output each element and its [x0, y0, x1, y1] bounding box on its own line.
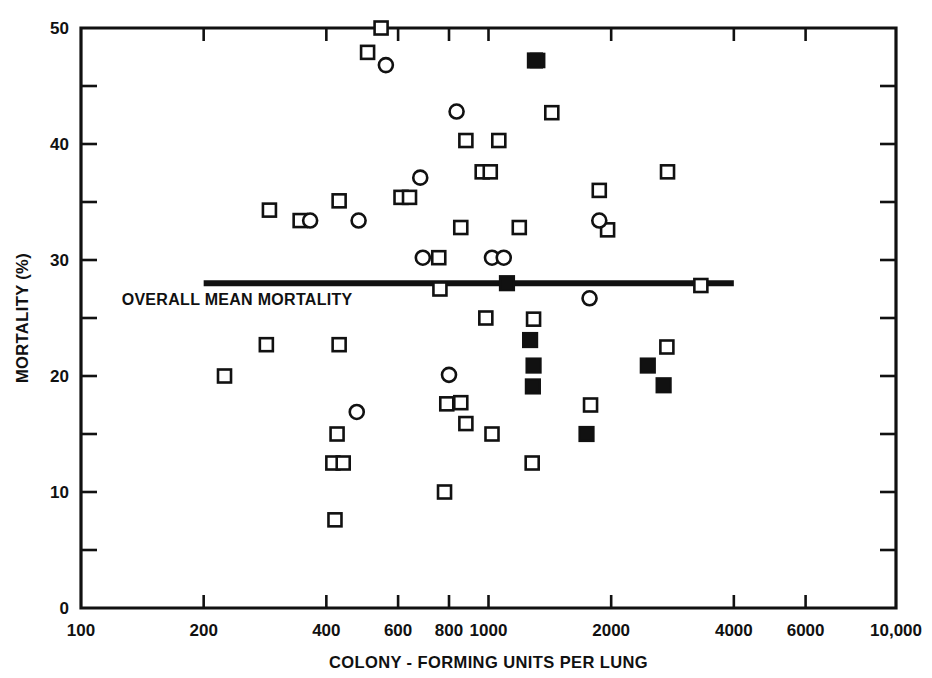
data-point-open-circle: [450, 105, 464, 119]
data-point-open-square: [440, 397, 453, 410]
data-point-open-square: [218, 370, 231, 383]
data-point-open-circle: [497, 251, 511, 265]
data-point-filled-square: [641, 359, 655, 373]
y-tick-label: 10: [50, 483, 69, 502]
data-point-open-square: [459, 134, 472, 147]
data-point-open-square: [337, 457, 350, 470]
x-axis-ticks: [204, 28, 806, 608]
data-point-open-circle: [413, 171, 427, 185]
data-point-open-circle: [592, 214, 606, 228]
data-point-open-square: [432, 251, 445, 264]
data-point-open-square: [486, 428, 499, 441]
data-point-open-circle: [442, 368, 456, 382]
data-point-open-square: [459, 417, 472, 430]
data-point-open-square: [660, 341, 673, 354]
data-point-open-circle: [352, 214, 366, 228]
data-point-open-square: [513, 221, 526, 234]
data-point-open-square: [263, 204, 276, 217]
data-point-open-circle: [583, 291, 597, 305]
figure-container: 100200400600800100020004000600010,000 01…: [0, 0, 932, 678]
data-point-filled-square: [528, 53, 542, 67]
x-axis-title: COLONY - FORMING UNITS PER LUNG: [329, 653, 648, 671]
data-point-open-square: [333, 194, 346, 207]
data-point-open-square: [375, 22, 388, 35]
x-tick-label: 100: [67, 621, 95, 640]
y-tick-label: 40: [50, 135, 69, 154]
x-tick-label: 800: [435, 621, 463, 640]
data-point-open-square: [526, 457, 539, 470]
x-axis-tick-labels: 100200400600800100020004000600010,000: [67, 621, 922, 640]
data-point-open-square: [593, 184, 606, 197]
y-tick-label: 20: [50, 367, 69, 386]
y-tick-label: 30: [50, 251, 69, 270]
x-tick-label: 10,000: [870, 621, 922, 640]
data-point-open-circle: [350, 405, 364, 419]
data-point-open-square: [331, 428, 344, 441]
x-tick-label: 6000: [787, 621, 825, 640]
data-point-open-square: [584, 399, 597, 412]
data-point-filled-square: [500, 276, 514, 290]
data-point-open-circle: [379, 58, 393, 72]
data-point-open-square: [260, 338, 273, 351]
data-point-open-square: [454, 396, 467, 409]
y-axis-title: MORTALITY (%): [13, 253, 31, 383]
y-tick-label: 50: [50, 19, 69, 38]
data-point-open-square: [333, 338, 346, 351]
overall-mean-mortality-label: OVERALL MEAN MORTALITY: [122, 291, 353, 308]
data-point-open-square: [403, 191, 416, 204]
data-point-filled-square: [526, 379, 540, 393]
x-tick-label: 400: [312, 621, 340, 640]
data-point-open-square: [527, 313, 540, 326]
data-point-filled-square: [580, 427, 594, 441]
y-axis-tick-labels: 01020304050: [50, 19, 69, 618]
data-point-open-square: [328, 513, 341, 526]
data-point-open-square: [661, 165, 674, 178]
data-point-filled-square: [523, 333, 537, 347]
x-tick-label: 600: [384, 621, 412, 640]
scatter-plot: 100200400600800100020004000600010,000 01…: [0, 0, 932, 678]
x-tick-label: 200: [189, 621, 217, 640]
data-point-open-square: [484, 165, 497, 178]
data-point-open-square: [492, 134, 505, 147]
data-point-open-square: [438, 486, 451, 499]
data-point-open-square: [454, 221, 467, 234]
data-point-filled-square: [527, 359, 541, 373]
x-tick-label: 4000: [715, 621, 753, 640]
data-point-open-square: [545, 106, 558, 119]
x-tick-label: 1000: [470, 621, 508, 640]
data-point-open-square: [694, 279, 707, 292]
data-point-filled-square: [657, 378, 671, 392]
data-point-open-circle: [303, 214, 317, 228]
data-markers: [218, 22, 707, 527]
data-point-open-circle: [416, 251, 430, 265]
y-tick-label: 0: [60, 599, 69, 618]
data-point-open-square: [433, 283, 446, 296]
data-point-open-square: [479, 312, 492, 325]
x-tick-label: 2000: [592, 621, 630, 640]
data-point-open-square: [361, 46, 374, 59]
